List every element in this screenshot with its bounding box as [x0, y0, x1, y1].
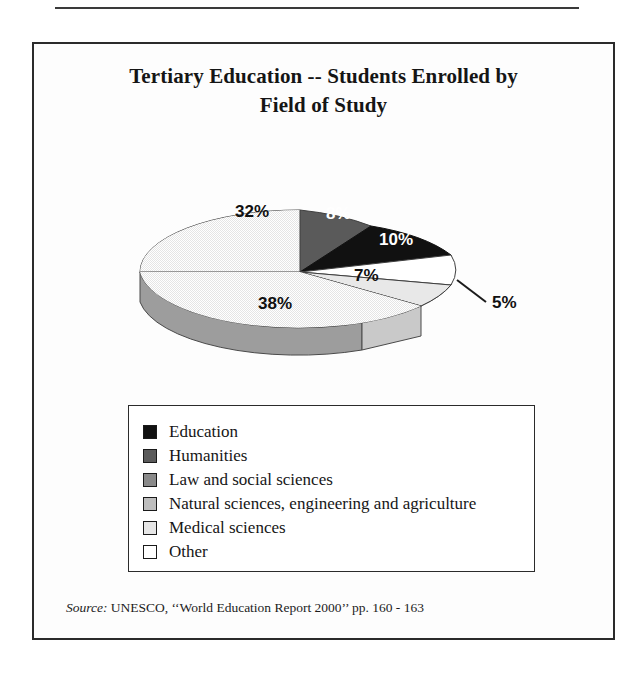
legend-swatch-other-icon: [143, 545, 157, 559]
source-note: Source: UNESCO, ‘‘World Education Report…: [66, 600, 634, 616]
legend-label-medical: Medical sciences: [169, 519, 286, 537]
legend-swatch-humanities-icon: [143, 449, 157, 463]
legend-swatch-law-icon: [143, 473, 157, 487]
legend-label-humanities: Humanities: [169, 447, 247, 465]
pie-label-natural: 38%: [258, 294, 292, 314]
legend-label-natural: Natural sciences, engineering and agricu…: [169, 495, 476, 513]
legend-item-medical-sciences[interactable]: Medical sciences: [143, 516, 534, 540]
pie-label-medical: 7%: [354, 266, 379, 286]
pie-label-other: 5%: [492, 293, 517, 313]
chart-title-line-2: Field of Study: [34, 91, 613, 120]
legend-swatch-natural-icon: [143, 497, 157, 511]
pie-label-law: 32%: [235, 202, 269, 222]
pie-callout-leader-line: [457, 280, 486, 302]
chart-legend: Education Humanities Law and social scie…: [128, 405, 535, 572]
page-top-rule: [55, 7, 579, 9]
legend-swatch-education-icon: [143, 425, 157, 439]
legend-item-other[interactable]: Other: [143, 540, 534, 564]
legend-label-other: Other: [169, 543, 208, 561]
pie-3d: 32% 8% 10% 7% 38% 5%: [130, 154, 530, 374]
legend-swatch-medical-icon: [143, 521, 157, 535]
chart-title-line-1: Tertiary Education -- Students Enrolled …: [34, 62, 613, 91]
legend-label-education: Education: [169, 423, 238, 441]
legend-item-education[interactable]: Education: [143, 420, 534, 444]
legend-item-natural-sciences[interactable]: Natural sciences, engineering and agricu…: [143, 492, 534, 516]
legend-item-law-and-social-sciences[interactable]: Law and social sciences: [143, 468, 534, 492]
figure-frame: Tertiary Education -- Students Enrolled …: [32, 42, 615, 640]
source-text: UNESCO, ‘‘World Education Report 2000’’ …: [111, 600, 424, 615]
chart-title: Tertiary Education -- Students Enrolled …: [34, 62, 613, 120]
legend-label-law: Law and social sciences: [169, 471, 333, 489]
source-prefix: Source:: [66, 600, 107, 615]
pie-top-face: [140, 210, 456, 328]
pie-label-education: 10%: [379, 230, 413, 250]
legend-item-humanities[interactable]: Humanities: [143, 444, 534, 468]
pie-label-humanities: 8%: [326, 204, 351, 224]
pie-chart: 32% 8% 10% 7% 38% 5%: [130, 154, 530, 374]
pie-svg: [130, 154, 530, 374]
figure-page: Tertiary Education -- Students Enrolled …: [0, 0, 634, 686]
